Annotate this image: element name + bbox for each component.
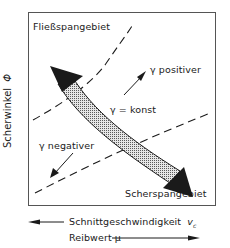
gamma-negative-label: γ negativer — [39, 140, 94, 151]
x-axis-label-friction: Reibwert μ — [69, 232, 121, 243]
gamma-positive-label: γ positiver — [150, 64, 201, 75]
x-axis-symbol-velocity: vc — [187, 216, 196, 227]
gamma-constant-label: γ = konst — [110, 104, 156, 115]
shear-angle-diagram: Scherwinkel Φ Fließspangebiet γ positive… — [0, 0, 230, 248]
x-axis-label-velocity-text: Schnittgeschwindigkeit — [69, 216, 181, 227]
velocity-axis-arrowhead-icon — [28, 220, 40, 225]
region-label-top: Fließspangebiet — [33, 21, 110, 32]
gamma-constant-band — [58, 76, 180, 183]
y-axis-label-text: Scherwinkel — [2, 88, 13, 148]
region-label-bottom: Scherspangebiet — [125, 188, 206, 199]
friction-axis-arrowhead-icon — [188, 236, 200, 241]
gamma-negative-pointer — [55, 153, 73, 173]
x-axis-label-velocity: Schnittgeschwindigkeit vc — [69, 216, 196, 231]
y-axis-label: Scherwinkel Φ — [2, 74, 13, 148]
y-axis-symbol: Φ — [2, 74, 13, 82]
diagram-canvas — [0, 0, 230, 248]
